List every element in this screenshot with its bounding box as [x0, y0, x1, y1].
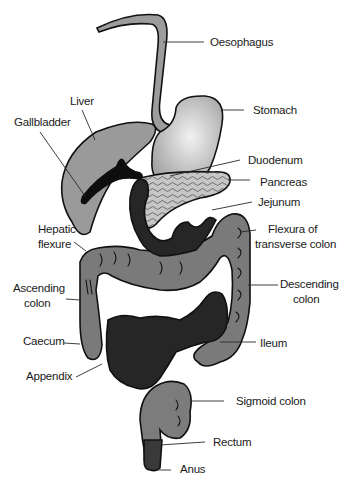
- label-oesophagus: Oesophagus: [210, 36, 274, 48]
- label-stomach: Stomach: [253, 104, 297, 116]
- oesophagus: [97, 15, 182, 134]
- label-ascending-colon-2: colon: [24, 297, 51, 309]
- label-rectum: Rectum: [213, 436, 251, 448]
- label-flexura-1: Flexura of: [268, 223, 318, 235]
- label-flexura-2: transverse colon: [255, 238, 336, 250]
- label-jejunum: Jejunum: [258, 196, 300, 208]
- label-hepatic-flexure-1: Hepatic: [38, 223, 76, 235]
- rectum: [144, 440, 162, 471]
- label-sigmoid-colon: Sigmoid colon: [236, 395, 306, 407]
- label-anus: Anus: [180, 463, 206, 475]
- label-liver: Liver: [70, 95, 94, 107]
- label-descending-colon-2: colon: [293, 293, 320, 305]
- label-appendix: Appendix: [26, 370, 73, 382]
- label-duodenum: Duodenum: [248, 154, 303, 166]
- label-caecum: Caecum: [23, 335, 65, 347]
- ileum: [106, 292, 227, 389]
- label-ascending-colon-1: Ascending: [13, 282, 65, 294]
- label-gallbladder: Gallbladder: [14, 116, 71, 128]
- label-hepatic-flexure-2: flexure: [38, 238, 71, 250]
- digestive-system-diagram: Oesophagus Liver Stomach Gallbladder Duo…: [0, 0, 343, 486]
- label-ileum: Ileum: [260, 337, 287, 349]
- label-pancreas: Pancreas: [260, 176, 307, 188]
- label-descending-colon-1: Descending: [280, 278, 339, 290]
